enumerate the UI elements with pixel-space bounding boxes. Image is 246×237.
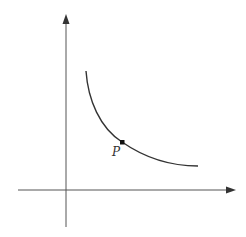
curve xyxy=(86,71,198,166)
diagram-canvas: P xyxy=(0,0,246,237)
point-p-marker xyxy=(120,140,125,145)
x-axis-arrow-icon xyxy=(226,187,236,194)
point-p-label: P xyxy=(111,145,121,159)
y-axis-arrow-icon xyxy=(63,14,70,24)
